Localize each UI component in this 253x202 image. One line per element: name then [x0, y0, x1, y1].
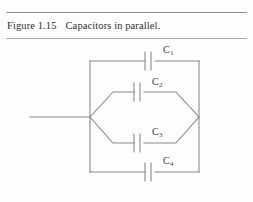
capacitor-label-c2-letter: C — [152, 76, 159, 87]
capacitor-label-c2-subscript: 2 — [159, 81, 163, 89]
capacitor-label-c4-subscript: 4 — [170, 160, 174, 168]
branch-c2-right-wire — [144, 92, 199, 117]
capacitor-label-c1-letter: C — [163, 44, 170, 55]
capacitor-label-c3-letter: C — [152, 126, 159, 137]
capacitor-label-c4: C4 — [163, 155, 173, 166]
capacitor-label-c1-subscript: 1 — [170, 49, 174, 57]
capacitor-label-c2: C2 — [152, 76, 162, 87]
figure-page: Figure 1.15Capacitors in parallel. — [0, 0, 253, 202]
capacitor-label-c1: C1 — [163, 44, 173, 55]
capacitor-label-c3-subscript: 3 — [159, 131, 163, 139]
capacitor-label-c3: C3 — [152, 126, 162, 137]
branch-c3-left-wire — [90, 117, 134, 143]
branch-c2-left-wire — [90, 92, 134, 117]
circuit-diagram — [0, 0, 253, 202]
capacitor-label-c4-letter: C — [163, 155, 170, 166]
